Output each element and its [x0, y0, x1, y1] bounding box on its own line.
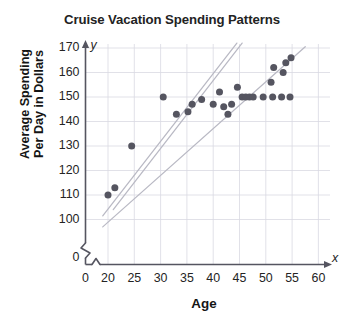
- y-axis-letter: y: [91, 38, 97, 52]
- y-tick-label: 100: [50, 212, 80, 226]
- data-point: [189, 101, 196, 108]
- data-point: [210, 101, 217, 108]
- data-point: [234, 84, 241, 91]
- axes: [81, 40, 332, 268]
- data-point: [250, 94, 257, 101]
- data-point: [270, 64, 277, 71]
- data-point: [184, 108, 191, 115]
- data-point: [268, 79, 275, 86]
- x-origin-label: 0: [71, 271, 101, 285]
- y-tick-label: 170: [50, 40, 80, 54]
- y-origin-label: 0: [50, 250, 80, 264]
- data-point: [269, 94, 276, 101]
- data-point: [260, 94, 267, 101]
- scatter-chart: Cruise Vacation Spending Patterns Averag…: [0, 0, 344, 321]
- y-tick-label: 140: [50, 114, 80, 128]
- x-axis-break-mark: [92, 259, 100, 265]
- data-point: [287, 94, 294, 101]
- data-point: [282, 59, 289, 66]
- y-tick-label: 120: [50, 163, 80, 177]
- data-point: [220, 103, 227, 110]
- data-point: [228, 101, 235, 108]
- y-axis-arrowhead: [82, 40, 89, 48]
- data-point: [105, 192, 112, 199]
- x-axis-arrowhead: [324, 261, 332, 268]
- data-point: [216, 89, 223, 96]
- data-point: [224, 111, 231, 118]
- x-axis-letter: x: [332, 251, 338, 265]
- y-axis-break-mark: [81, 243, 90, 258]
- data-point: [128, 143, 135, 150]
- data-point: [173, 111, 180, 118]
- upper-band-line: [103, 43, 237, 216]
- x-tick-label: 60: [303, 271, 333, 285]
- lower-band-line: [103, 47, 306, 227]
- data-point: [278, 94, 285, 101]
- y-tick-label: 110: [50, 187, 80, 201]
- data-point: [280, 69, 287, 76]
- gridlines: [86, 44, 331, 265]
- best-fit-line: [113, 43, 242, 210]
- y-tick-label: 160: [50, 65, 80, 79]
- data-point: [160, 94, 167, 101]
- y-tick-label: 150: [50, 89, 80, 103]
- data-point: [288, 54, 295, 61]
- y-tick-label: 130: [50, 138, 80, 152]
- data-point: [198, 96, 205, 103]
- data-point: [111, 184, 118, 191]
